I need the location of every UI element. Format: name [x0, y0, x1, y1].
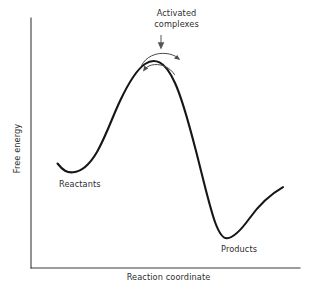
products-label: Products	[221, 244, 257, 255]
activated-complexes-label-line1: Activated	[157, 8, 197, 18]
x-axis-label: Reaction coordinate	[14, 272, 309, 283]
reaction-coordinate-diagram: Activated complexes Reactants Products R…	[0, 0, 309, 294]
energy-profile-curve	[58, 61, 284, 238]
activated-complexes-label-line2: complexes	[22, 19, 309, 30]
activated-complexes-label: Activated complexes	[22, 8, 309, 30]
diagram-canvas	[0, 0, 309, 294]
activated-complexes-pointer-arrowhead	[158, 42, 165, 49]
y-axis-label: Free energy	[12, 114, 23, 184]
reactants-label: Reactants	[59, 179, 101, 190]
